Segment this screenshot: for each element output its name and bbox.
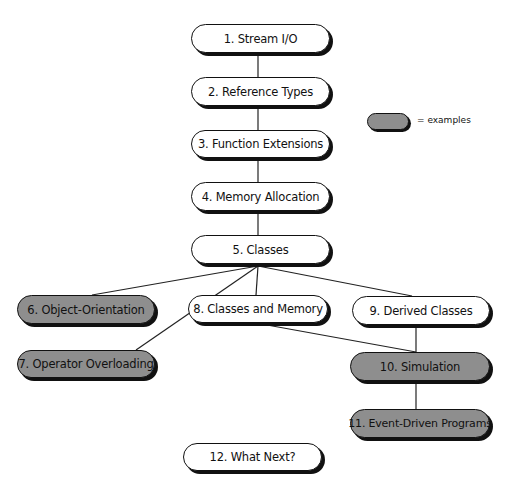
node-classes-and-memory: 8. Classes and Memory xyxy=(188,295,328,323)
node-stream-io: 1. Stream I/O xyxy=(191,24,330,53)
node-function-extensions: 3. Function Extensions xyxy=(191,130,330,158)
node-derived-classes: 9. Derived Classes xyxy=(352,296,490,325)
node-reference-types: 2. Reference Types xyxy=(191,77,330,106)
node-classes: 5. Classes xyxy=(191,235,330,264)
node-memory-allocation: 4. Memory Allocation xyxy=(191,182,330,211)
edge-5-6 xyxy=(92,266,258,295)
node-object-orientation: 6. Object-Orientation xyxy=(17,295,155,324)
edge-8-10 xyxy=(256,323,416,352)
node-operator-overloading: 7. Operator Overloading xyxy=(17,350,155,378)
node-event-driven-programs: 11. Event-Driven Programs xyxy=(350,409,490,438)
node-what-next: 12. What Next? xyxy=(183,443,322,471)
node-simulation: 10. Simulation xyxy=(350,352,490,381)
edge-5-8 xyxy=(256,266,258,295)
legend-label: = examples xyxy=(417,115,471,125)
edge-5-9 xyxy=(258,266,412,296)
legend-example-swatch xyxy=(367,113,409,130)
